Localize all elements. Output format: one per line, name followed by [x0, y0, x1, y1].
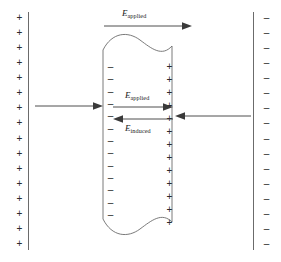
charge-minus: –	[108, 124, 114, 134]
charge-plus: +	[167, 218, 173, 228]
e-subscript: applied	[128, 12, 147, 19]
charge-plus: +	[167, 88, 173, 98]
dielectric-slab-field-diagram: + + + + + + + + + + + + + + + + – – – – …	[0, 0, 281, 262]
charge-minus: –	[108, 210, 114, 220]
charge-minus: –	[108, 173, 114, 183]
e-subscript: induced	[131, 127, 151, 134]
e-applied-inner-label: Eapplied	[125, 90, 149, 100]
right-external-field-arrow	[175, 110, 253, 122]
e-induced-inner-label: Einduced	[125, 123, 151, 133]
charge-plus: +	[167, 179, 173, 189]
charge-minus: –	[108, 74, 114, 84]
e-symbol: E	[125, 90, 131, 100]
charge-plus: +	[167, 153, 173, 163]
inner-applied-field-arrow	[113, 101, 177, 113]
e-subscript: applied	[131, 94, 150, 101]
charge-minus: –	[108, 87, 114, 97]
charge-minus: –	[108, 185, 114, 195]
charge-plus: +	[167, 166, 173, 176]
charge-plus: +	[167, 192, 173, 202]
e-symbol: E	[122, 8, 128, 18]
charge-minus: –	[108, 198, 114, 208]
charge-minus: –	[108, 136, 114, 146]
e-applied-top-label: Eapplied	[122, 8, 146, 18]
charge-plus: +	[167, 140, 173, 150]
charge-minus: –	[108, 161, 114, 171]
charge-plus: +	[167, 205, 173, 215]
charge-plus: +	[167, 62, 173, 72]
slab-right-face-charge-column: + + + + + + + + + + + + +	[164, 62, 175, 228]
top-applied-field-arrow	[104, 20, 196, 32]
charge-plus: +	[167, 75, 173, 85]
charge-plus: +	[167, 127, 173, 137]
slab-left-face-charge-column: – – – – – – – – – – – – –	[105, 62, 116, 220]
e-symbol: E	[125, 123, 131, 133]
charge-minus: –	[108, 148, 114, 158]
left-external-field-arrow	[35, 100, 105, 112]
charge-minus: –	[108, 62, 114, 72]
